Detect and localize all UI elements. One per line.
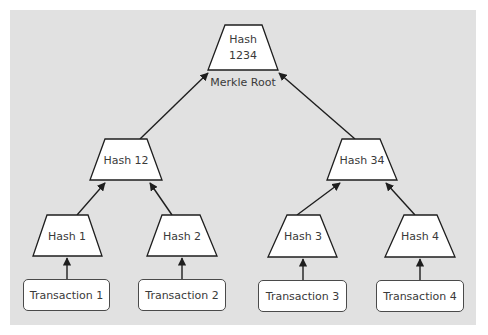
transaction-4-label: Transaction 4 xyxy=(383,290,456,303)
transaction-3-box: Transaction 3 xyxy=(258,280,347,312)
node-hash-12: Hash 12 xyxy=(90,139,162,180)
transaction-3-label: Transaction 3 xyxy=(266,290,339,303)
edge-hash2-hash12 xyxy=(150,183,172,215)
hash-2-label: Hash 2 xyxy=(163,230,201,243)
edge-hash3-hash34 xyxy=(297,183,340,215)
merkle-tree-diagram: Hash 1234 Merkle Root Hash 12 Hash 34 Ha… xyxy=(0,0,488,335)
node-hash-2: Hash 2 xyxy=(147,215,217,256)
edge-hash34-root xyxy=(279,73,355,139)
merkle-root-caption: Merkle Root xyxy=(210,76,276,89)
node-hash-3: Hash 3 xyxy=(268,215,337,257)
hash-4-label: Hash 4 xyxy=(401,230,439,243)
hash-3-label: Hash 3 xyxy=(284,230,322,243)
edge-hash4-hash34 xyxy=(386,183,415,215)
transaction-1-label: Transaction 1 xyxy=(30,289,103,302)
root-hash-label-line1: Hash xyxy=(229,33,257,46)
edge-hash1-hash12 xyxy=(77,183,105,215)
transaction-1-box: Transaction 1 xyxy=(23,279,110,311)
hash-1-label: Hash 1 xyxy=(48,230,86,243)
transaction-2-label: Transaction 2 xyxy=(145,289,218,302)
node-hash-34: Hash 34 xyxy=(327,139,397,180)
transaction-4-box: Transaction 4 xyxy=(376,280,464,312)
node-hash-1: Hash 1 xyxy=(33,215,102,256)
hash-34-label: Hash 34 xyxy=(339,154,384,167)
edge-hash12-root xyxy=(140,73,208,139)
root-hash-label-line2: 1234 xyxy=(229,49,257,62)
node-root-hash: Hash 1234 xyxy=(208,25,278,70)
hash-12-label: Hash 12 xyxy=(103,154,148,167)
transaction-2-box: Transaction 2 xyxy=(138,279,226,311)
node-hash-4: Hash 4 xyxy=(385,215,455,257)
